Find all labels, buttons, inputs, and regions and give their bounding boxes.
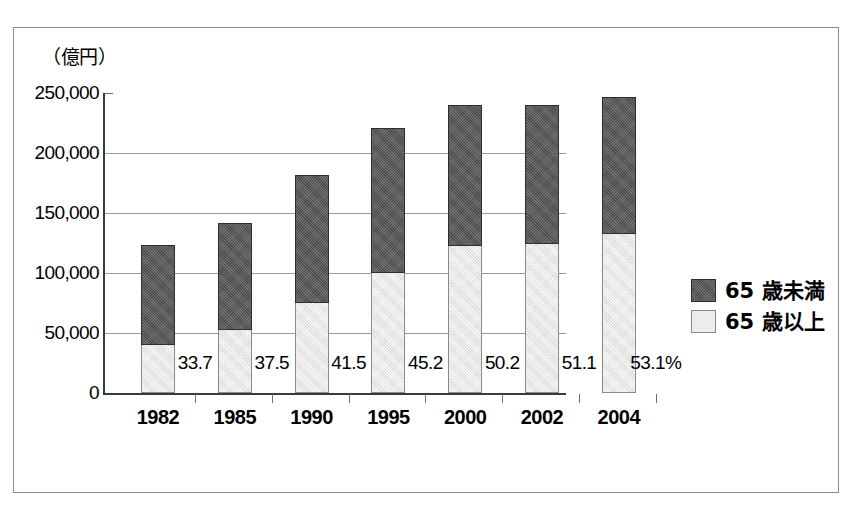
bar-segment-under-65: [448, 105, 482, 246]
x-axis-tick: [425, 394, 426, 403]
y-axis-tick: [104, 93, 113, 94]
bar-2004: [602, 97, 636, 393]
x-axis-category-label-2002: 2002: [502, 406, 582, 428]
legend-label-65-and-over: 65 歳以上: [725, 311, 825, 333]
legend-label-under-65: 65 歳未満: [725, 280, 825, 302]
x-axis-line: [103, 393, 566, 395]
y-axis-tick-label: 0: [0, 383, 99, 402]
legend-swatch-light-icon: [691, 310, 716, 333]
share-label-2002: 51.1: [542, 353, 616, 373]
y-axis-tick-label: 100,000: [0, 263, 99, 282]
bar-segment-65-and-over: [295, 302, 329, 393]
y-axis-tick-label: 150,000: [0, 203, 99, 222]
x-axis-category-label-1995: 1995: [348, 406, 428, 428]
chart-plot-area: （億円） 050,000100,000150,000200,000250,000…: [0, 0, 859, 511]
y-axis-tick-label-text: 50,000: [3, 323, 99, 342]
y-axis-tick-label: 200,000: [0, 143, 99, 162]
bar-segment-under-65: [525, 105, 559, 244]
gridline: [104, 213, 566, 214]
chart-legend: 65 歳未満 65 歳以上: [691, 275, 825, 337]
bar-segment-under-65: [602, 97, 636, 235]
y-axis-tick-label: 50,000: [0, 323, 99, 342]
bar-2002: [525, 105, 559, 393]
share-label-1990: 41.5: [312, 353, 386, 373]
y-axis-tick-label-text: 0: [3, 383, 99, 402]
x-axis-tick: [349, 394, 350, 403]
legend-item-under-65: 65 歳未満: [691, 275, 825, 306]
share-label-1985: 37.5: [235, 353, 309, 373]
x-axis-tick: [502, 394, 503, 403]
y-axis-tick-label-text: 100,000: [3, 263, 99, 282]
bar-2000: [448, 105, 482, 393]
share-label-1982: 33.7: [158, 353, 232, 373]
y-axis-tick-label: 250,000: [0, 83, 99, 102]
bar-segment-65-and-over: [371, 272, 405, 393]
bar-segment-under-65: [295, 175, 329, 303]
bar-segment-under-65: [141, 245, 175, 344]
share-label-1995: 45.2: [388, 353, 462, 373]
gridline: [104, 153, 566, 154]
legend-swatch-dark-icon: [691, 279, 716, 302]
x-axis-category-label-2000: 2000: [425, 406, 505, 428]
x-axis-tick: [272, 394, 273, 403]
x-axis-category-label-1982: 1982: [118, 406, 198, 428]
x-axis-tick: [656, 394, 657, 403]
chart-figure: （億円） 050,000100,000150,000200,000250,000…: [0, 0, 859, 511]
share-label-2000: 50.2: [465, 353, 539, 373]
x-axis-category-label-2004: 2004: [579, 406, 659, 428]
x-axis-category-label-1985: 1985: [195, 406, 275, 428]
bar-segment-under-65: [371, 128, 405, 273]
x-axis-tick: [195, 394, 196, 403]
x-axis-tick: [579, 394, 580, 403]
y-axis-tick-label-text: 250,000: [3, 83, 99, 102]
legend-item-65-and-over: 65 歳以上: [691, 306, 825, 337]
share-label-2004: 53.1%: [619, 353, 693, 373]
y-axis-tick-label-text: 200,000: [3, 143, 99, 162]
bar-segment-under-65: [218, 223, 252, 331]
y-axis-line: [103, 93, 105, 395]
y-axis-unit-label: （億円）: [42, 42, 116, 69]
x-axis-category-label-1990: 1990: [272, 406, 352, 428]
y-axis-tick-label-text: 150,000: [3, 203, 99, 222]
